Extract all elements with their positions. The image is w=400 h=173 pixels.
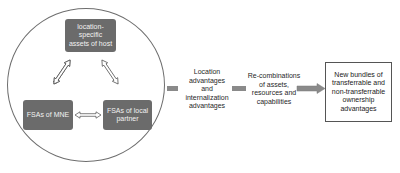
stage-1-line-4: internalization [185,94,228,101]
stage-2-line-1: Re-combinations [248,72,301,79]
connector-bar-stage-1-to-stage-2 [232,86,246,91]
node-host-line-2: specific [79,31,102,38]
stage-1-line-3: and [201,85,213,92]
node-fsas-of-local-partner: FSAs of local partner [103,100,152,130]
outcome-box-new-bundles: New bundles of transferrable and non-tra… [325,62,392,122]
outcome-line-5: advantages [340,105,376,112]
stage-location-internalization-advantages: Location advantages and internalization … [176,68,238,111]
stage-2-line-4: capabilities [257,98,292,105]
outcome-line-1: New bundles of [334,71,382,78]
node-host-line-3: assets of host [69,40,112,47]
node-fsas-of-mne: FSAs of MNE [23,100,73,130]
node-host-line-1: location- [77,23,103,30]
stage-2-line-3: resources and [252,89,296,96]
node-partner-line-2: partner [116,115,138,122]
outcome-line-4: ownership [343,96,375,103]
stage-1-line-2: advantages [189,77,225,84]
stage-2-line-2: of assets, [259,81,289,88]
stage-recombinations: Re-combinations of assets, resources and… [246,72,302,106]
stage-1-line-5: advantages [189,102,225,109]
node-mne-label: FSAs of MNE [27,111,69,120]
diagram-canvas: location- specific assets of host FSAs o… [0,0,400,173]
outcome-line-3: non-transferrable [332,88,385,95]
outcome-line-2: transferrable and [332,79,385,86]
stage-1-line-1: Location [194,68,220,75]
node-partner-line-1: FSAs of local [107,107,148,114]
node-location-specific-assets-of-host: location- specific assets of host [65,19,116,52]
